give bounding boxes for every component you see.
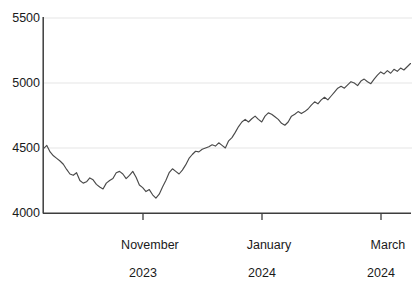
x-tick-year: 2024 <box>357 266 406 280</box>
gridlines-group <box>43 18 412 148</box>
x-tick-month: January <box>247 238 291 252</box>
x-tick-label-march-2024: March 2024 <box>357 224 406 281</box>
y-tick-label-4500: 4500 <box>0 141 40 155</box>
x-tick-label-november-2023: November 2023 <box>107 224 179 281</box>
x-tick-year: 2024 <box>233 266 291 280</box>
x-tick-month: March <box>371 238 406 252</box>
y-tick-label-4000: 4000 <box>0 206 40 220</box>
x-tick-month: November <box>121 238 179 252</box>
x-tick-label-january-2024: January 2024 <box>233 224 291 281</box>
y-tick-label-5000: 5000 <box>0 76 40 90</box>
axes-group <box>43 17 411 220</box>
x-tick-year: 2023 <box>107 266 179 280</box>
y-tick-label-5500: 5500 <box>0 11 40 25</box>
